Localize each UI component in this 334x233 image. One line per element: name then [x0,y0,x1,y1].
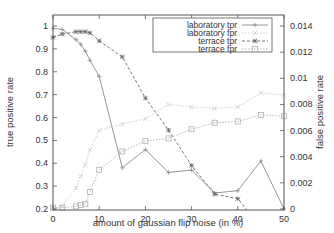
plot-lines [51,26,287,211]
x-tick-label: 0 [50,214,55,224]
y2-tick-label: 0 [290,204,295,214]
y2-axis-label: false positive rate [314,75,325,149]
y-tick-label: 0.2 [35,204,48,214]
y2-tick-label: 0.006 [290,126,313,136]
y-tick-label: 0.5 [35,135,48,145]
y-tick-label: 0.8 [35,67,48,77]
y2-tick-label: 0.014 [290,21,313,31]
x-tick-label: 50 [279,214,289,224]
y-tick-label: 0.7 [35,90,48,100]
y-tick-label: 1 [43,21,48,31]
x-axis-label: amount of gaussian flip noise (in %) [93,217,244,228]
legend-label: terrace fpr [198,44,237,54]
y-axis-label: true positive rate [4,77,15,147]
series-terrace-tpr [51,30,247,210]
legend: laboratory tprlaboratory fprterrace tprt… [153,18,272,54]
y2-tick-label: 0.008 [290,99,313,109]
y-tick-label: 0.9 [35,44,48,54]
series-laboratory-fpr [51,90,286,209]
chart: 010203040500.20.30.40.50.60.70.80.9100.0… [0,0,334,233]
series-laboratory-tpr [51,26,286,211]
y-tick-label: 0.3 [35,181,48,191]
y2-tick-label: 0.004 [290,152,313,162]
y-tick-label: 0.4 [35,158,48,168]
y-tick-label: 0.6 [35,113,48,123]
series-terrace-fpr [51,112,287,210]
y2-tick-label: 0.01 [290,73,308,83]
y2-tick-label: 0.002 [290,178,313,188]
y2-tick-label: 0.012 [290,47,313,57]
